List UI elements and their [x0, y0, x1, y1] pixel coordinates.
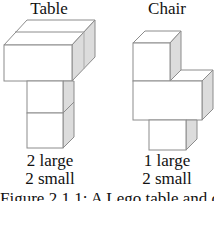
chair-large-front: [133, 81, 202, 120]
table-large-front: [4, 45, 72, 81]
chair-count-large: 1 large: [127, 152, 207, 170]
chair-count-small: 2 small: [127, 170, 207, 188]
table-count-small: 2 small: [10, 170, 90, 188]
chair-small-bottom-front: [149, 120, 186, 150]
chair-model: [133, 31, 213, 150]
chair-small-bottom-side: [186, 120, 197, 150]
table-count-large: 2 large: [10, 152, 90, 170]
table-model: [4, 20, 95, 148]
table-small-lower: [27, 113, 63, 148]
chair-small-top-front: [133, 43, 170, 81]
figure-caption: Figure 2.1.1: A Lego table and chair: [0, 190, 214, 201]
table-small-upper: [27, 81, 63, 113]
table-small-side: [63, 81, 74, 148]
